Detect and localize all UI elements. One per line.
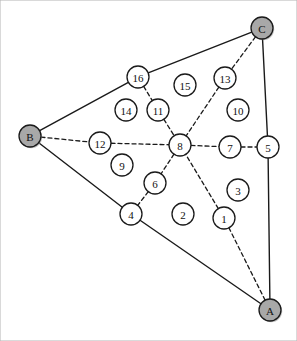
node-15[interactable]: 15	[174, 74, 196, 96]
vertex-A[interactable]: A	[259, 299, 282, 322]
node-12[interactable]: 12	[89, 132, 111, 154]
node-label-9: 9	[119, 160, 125, 172]
node-label-12: 12	[95, 138, 106, 150]
node-9[interactable]: 9	[111, 154, 133, 176]
vertex-C[interactable]: C	[251, 17, 274, 40]
node-10[interactable]: 10	[227, 99, 249, 121]
node-3[interactable]: 3	[227, 179, 249, 201]
figure-background	[0, 0, 297, 341]
node-2[interactable]: 2	[172, 203, 194, 225]
node-label-10: 10	[233, 105, 245, 117]
node-13[interactable]: 13	[214, 67, 236, 89]
node-label-4: 4	[128, 209, 134, 221]
node-label-8: 8	[177, 140, 183, 152]
node-4[interactable]: 4	[120, 203, 142, 225]
vertex-label-A: A	[266, 305, 274, 317]
triangle-graph-figure: 12345678910111213141516 ABC	[0, 0, 297, 341]
node-label-11: 11	[153, 105, 164, 117]
node-5[interactable]: 5	[257, 136, 279, 158]
node-label-6: 6	[152, 178, 158, 190]
node-14[interactable]: 14	[115, 99, 137, 121]
vertex-label-C: C	[258, 23, 265, 35]
vertex-label-B: B	[26, 131, 33, 143]
node-label-2: 2	[180, 209, 186, 221]
node-7[interactable]: 7	[219, 136, 241, 158]
node-1[interactable]: 1	[213, 207, 235, 229]
node-label-15: 15	[180, 80, 192, 92]
node-label-7: 7	[227, 142, 233, 154]
node-label-3: 3	[235, 185, 241, 197]
node-label-1: 1	[221, 213, 227, 225]
node-16[interactable]: 16	[127, 66, 149, 88]
node-label-5: 5	[265, 142, 271, 154]
node-6[interactable]: 6	[144, 172, 166, 194]
node-11[interactable]: 11	[147, 99, 169, 121]
node-label-16: 16	[133, 72, 145, 84]
vertex-B[interactable]: B	[19, 125, 42, 148]
node-label-14: 14	[121, 105, 133, 117]
graph-canvas: 12345678910111213141516 ABC	[0, 0, 297, 341]
node-8[interactable]: 8	[169, 134, 191, 156]
node-label-13: 13	[220, 73, 232, 85]
